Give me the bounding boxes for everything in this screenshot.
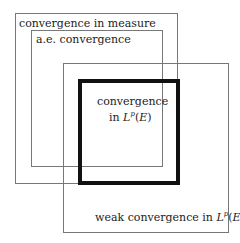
measure-label: convergence in measure bbox=[19, 17, 156, 30]
ae-label: a.e. convergence bbox=[36, 33, 131, 46]
lp-label-line1: convergence bbox=[97, 95, 168, 108]
lp-prefix: in bbox=[109, 111, 123, 124]
weak-math: L bbox=[216, 211, 223, 224]
weak-prefix: weak convergence in bbox=[95, 211, 216, 224]
weak-label: weak convergence in Lp(E) bbox=[95, 208, 240, 224]
weak-suffix: (E) bbox=[228, 211, 240, 224]
lp-suffix: (E) bbox=[135, 111, 152, 124]
lp-label-line2: in Lp(E) bbox=[109, 108, 152, 124]
